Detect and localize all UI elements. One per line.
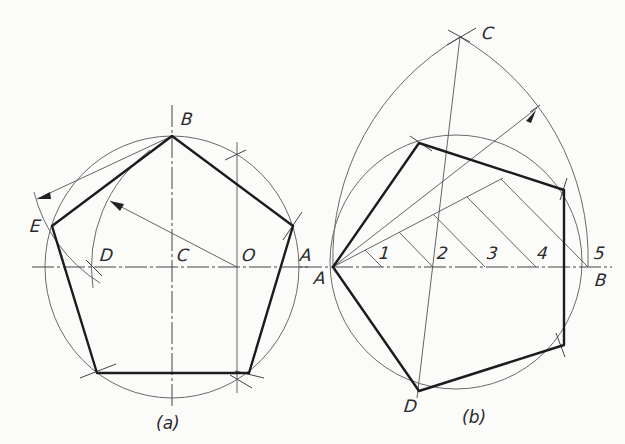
arrowhead-icon <box>526 110 536 123</box>
label-division-3: 3 <box>486 245 499 262</box>
division-parallel-2 <box>399 232 433 267</box>
arc-tick <box>530 105 540 112</box>
label-point-d-a: D <box>99 247 114 264</box>
label-point-c-a: C <box>176 247 190 264</box>
label-point-o-a: O <box>241 247 256 264</box>
arc-tick <box>80 364 116 378</box>
caption-figure-a: (a) <box>156 415 180 432</box>
division-line <box>333 178 503 267</box>
label-point-d-b: D <box>403 398 418 415</box>
figure-b-construction <box>300 28 612 398</box>
label-division-1: 1 <box>378 245 391 262</box>
diagram-canvas: B E D C O A (a) C A B D 1 2 3 4 5 (b) <box>0 0 625 444</box>
arc-be <box>34 192 100 283</box>
label-point-b-b: B <box>594 272 607 289</box>
arc-tick <box>447 28 476 45</box>
line-c-to-d <box>417 37 460 398</box>
label-point-a-a: A <box>299 247 312 264</box>
division-parallel-4 <box>467 197 536 267</box>
arc-from-b <box>333 37 460 267</box>
arc-from-a <box>460 37 588 267</box>
label-point-e-a: E <box>29 218 42 235</box>
label-point-a-b: A <box>313 270 326 287</box>
figure-a-construction <box>32 105 310 407</box>
radius-line-be <box>37 136 172 199</box>
arrowhead-icon <box>110 201 124 211</box>
label-division-5: 5 <box>593 245 606 262</box>
label-point-c-b: C <box>481 25 495 42</box>
label-division-4: 4 <box>536 245 549 262</box>
label-division-2: 2 <box>436 245 449 262</box>
arc-tick <box>448 30 470 42</box>
caption-figure-b: (b) <box>462 409 486 426</box>
radius-line-ob <box>110 201 237 267</box>
arrowhead-icon <box>37 192 51 199</box>
pentagon-construction-drawing <box>0 0 625 444</box>
label-point-b-a: B <box>180 111 193 128</box>
